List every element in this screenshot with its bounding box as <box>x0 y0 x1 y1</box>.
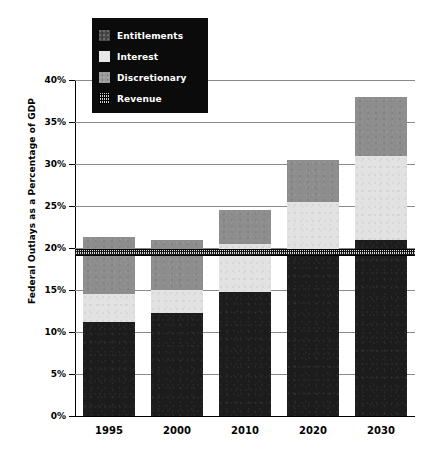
chart-legend: EntitlementsInterestDiscretionaryRevenue <box>92 18 208 113</box>
legend-item-label: Discretionary <box>117 73 186 83</box>
y-axis-tick-label: 5% <box>51 369 66 379</box>
legend-swatch-icon-interest <box>99 51 110 62</box>
x-axis-label-2030: 2030 <box>347 425 415 436</box>
bar-segment-discretionary-2000 <box>151 240 203 290</box>
y-tick-mark <box>69 122 75 123</box>
bar-segment-discretionary-2030 <box>355 97 407 156</box>
bar-segment-entitlements-2020 <box>287 256 339 416</box>
y-axis-title: Federal Outlays as a Percentage of GDP <box>27 91 37 311</box>
bar-group-2000 <box>151 80 203 416</box>
bar-segment-interest-1995 <box>83 294 135 322</box>
y-tick-mark <box>69 374 75 375</box>
x-axis-label-2010: 2010 <box>211 425 279 436</box>
y-axis-tick-label: 0% <box>51 411 66 421</box>
y-axis-tick-label: 15% <box>44 285 66 295</box>
bar-segment-entitlements-1995 <box>83 322 135 416</box>
y-tick-mark <box>69 164 75 165</box>
bar-segment-entitlements-2030 <box>355 240 407 416</box>
legend-item-revenue[interactable]: Revenue <box>92 88 208 109</box>
bar-segment-discretionary-2020 <box>287 160 339 202</box>
bar-segment-discretionary-2010 <box>219 210 271 244</box>
legend-item-entitlements[interactable]: Entitlements <box>92 25 208 46</box>
plot-area: 0%5%10%15%20%25%30%35%40% <box>75 80 415 416</box>
y-tick-mark <box>69 206 75 207</box>
bar-segment-interest-2030 <box>355 156 407 241</box>
bar-group-2010 <box>219 80 271 416</box>
bar-segment-entitlements-2010 <box>219 292 271 416</box>
y-tick-mark <box>69 416 75 417</box>
legend-item-label: Entitlements <box>117 31 183 41</box>
legend-swatch-icon-revenue <box>99 93 110 104</box>
x-axis-label-2020: 2020 <box>279 425 347 436</box>
stacked-bar-chart: Federal Outlays as a Percentage of GDP 0… <box>0 0 434 462</box>
y-tick-mark <box>69 332 75 333</box>
revenue-reference-band <box>75 249 415 256</box>
legend-swatch-icon-entitlements <box>99 30 110 41</box>
legend-item-label: Interest <box>117 52 158 62</box>
y-axis-tick-label: 25% <box>44 201 66 211</box>
y-axis-tick-label: 10% <box>44 327 66 337</box>
gridline-0% <box>75 416 415 417</box>
bar-segment-entitlements-2000 <box>151 313 203 416</box>
y-axis-tick-label: 35% <box>44 117 66 127</box>
y-tick-mark <box>69 290 75 291</box>
y-axis-tick-label: 40% <box>44 75 66 85</box>
legend-item-label: Revenue <box>117 94 162 104</box>
legend-swatch-icon-discretionary <box>99 72 110 83</box>
bar-group-2030 <box>355 80 407 416</box>
y-axis-tick-label: 30% <box>44 159 66 169</box>
x-axis-label-1995: 1995 <box>75 425 143 436</box>
bar-group-2020 <box>287 80 339 416</box>
y-tick-mark <box>69 80 75 81</box>
bar-segment-discretionary-1995 <box>83 237 135 294</box>
legend-item-discretionary[interactable]: Discretionary <box>92 67 208 88</box>
bar-segment-interest-2000 <box>151 290 203 313</box>
legend-item-interest[interactable]: Interest <box>92 46 208 67</box>
x-axis-label-2000: 2000 <box>143 425 211 436</box>
bar-group-1995 <box>83 80 135 416</box>
y-axis-tick-label: 20% <box>44 243 66 253</box>
